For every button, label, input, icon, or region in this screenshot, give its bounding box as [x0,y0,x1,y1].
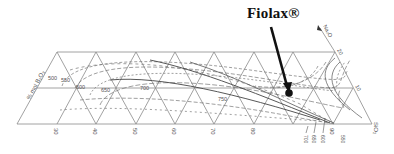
tick-label: 40 [92,128,98,135]
isotherm-label: 550 [340,135,346,144]
isotherm-label: 600 [76,84,85,90]
fiolax-callout-label: Fiolax® [247,5,300,22]
isotherm-label: 500 [48,75,57,81]
tick-label: 30 [53,128,59,135]
na2o-tick: 20 [336,48,344,56]
isotherm-label: 700 [140,85,149,91]
ternary-grid-svg: % mol B₂O₃ 500 550 600 650 700 750 30 40… [0,0,394,154]
tick-label: 70 [210,128,216,135]
isotherm-label: 700 [303,135,309,144]
isotherm-label: 650 [311,135,317,144]
tick-label: 80 [250,128,256,135]
bottom-right-isotherms: 700 650 600 550 [303,118,346,144]
fiolax-marker-dot [285,89,293,97]
sio2-label: SiO₂ [373,122,379,135]
ternary-diagram: % mol B₂O₃ 500 550 600 650 700 750 30 40… [0,0,394,154]
left-axis-label: % mol B₂O₃ [26,69,46,100]
isotherm-label: 600 [320,135,326,144]
na2o-tick: 10 [354,84,362,92]
isotherm-label: 550 [61,77,70,83]
tick-label: 60 [171,128,177,135]
tick-label: 90 [329,128,335,135]
isotherm-label: 750 [218,96,227,102]
bottom-ticks: 30 40 50 60 70 80 90 [53,128,335,135]
na2o-axis-arrowhead-icon [317,25,322,31]
na2o-axis-label: Na₂O [322,24,334,39]
tick-label: 50 [132,128,138,135]
isotherm-label: 650 [101,87,110,93]
